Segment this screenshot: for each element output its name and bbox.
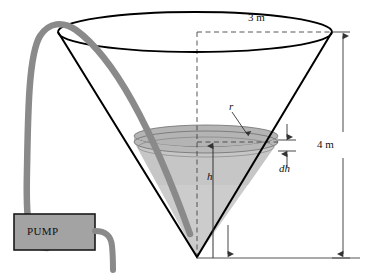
label-tank-height: 4 m <box>317 139 334 150</box>
pump-outlet-hose-icon <box>95 231 113 270</box>
label-slice-thickness: dh <box>279 163 290 174</box>
height-dimension-4m <box>332 32 350 258</box>
label-radius: r <box>229 101 233 112</box>
conical-tank-diagram: 3 m 4 m r h dh PUMP <box>0 0 372 274</box>
label-pump: PUMP <box>27 226 59 237</box>
dh-dimension <box>278 124 296 167</box>
label-water-height: h <box>207 171 213 182</box>
label-top-diameter: 3 m <box>248 12 265 23</box>
